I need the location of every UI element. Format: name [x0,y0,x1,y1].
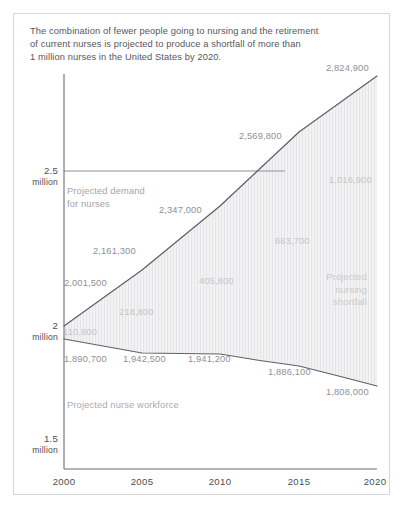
x-tick-2005: 2005 [117,476,167,487]
x-tick-2010: 2010 [195,476,245,487]
workforce-value-2005: 1,942,500 [123,354,166,364]
demand-value-2015: 2,569,800 [239,131,282,141]
workforce-value-2010: 1,941,200 [188,354,231,364]
annotation-projected-shortfall: Projected nursing shortfall [292,271,367,309]
annotation-shortfall-line-1: Projected [292,271,367,284]
chart-plot [14,14,391,496]
demand-value-2000: 2,001,500 [64,278,107,288]
demand-value-2005: 2,161,300 [93,246,136,256]
y-tick-2-million: 2 million [12,320,58,343]
workforce-value-2015: 1,886,100 [268,367,311,377]
figure-frame: The combination of fewer people going to… [13,13,390,495]
shortfall-value-2000: 110,800 [63,327,97,337]
annotation-projected-workforce: Projected nurse workforce [67,399,179,412]
x-tick-2015: 2015 [274,476,324,487]
shortfall-value-2005: 218,800 [119,307,154,317]
shortfall-area [64,76,377,386]
annotation-projected-demand: Projected demand for nurses [67,185,145,210]
y-tick-2-value: 2 [12,320,58,332]
y-tick-2-unit: million [12,332,58,344]
workforce-value-2000: 1,890,700 [64,354,107,364]
annotation-shortfall-line-3: shortfall [292,296,367,309]
y-tick-1-5-value: 1.5 [12,433,58,445]
x-tick-2020: 2020 [350,476,400,487]
annotation-shortfall-line-2: nursing [292,284,367,297]
y-tick-1-5-unit: million [12,445,58,457]
demand-value-2020: 2,824,900 [326,63,369,73]
annotation-demand-line-2: for nurses [67,198,145,211]
y-tick-2-5-value: 2.5 [12,165,58,177]
y-tick-2-5-million: 2.5 million [12,165,58,188]
shortfall-value-2010: 405,800 [199,276,234,286]
annotation-demand-line-1: Projected demand [67,185,145,198]
shortfall-value-2020: 1,016,900 [329,175,372,185]
y-tick-2-5-unit: million [12,177,58,189]
shortfall-value-2015: 683,700 [275,236,310,246]
demand-value-2010: 2,347,000 [159,205,202,215]
x-tick-2000: 2000 [39,476,89,487]
workforce-value-2020: 1,808,000 [326,387,369,397]
y-tick-1-5-million: 1.5 million [12,433,58,456]
